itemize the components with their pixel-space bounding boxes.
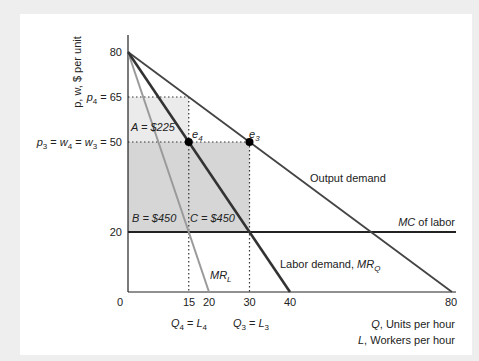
y-axis-title: p, w, $ per unit	[71, 36, 83, 108]
chart-svg: p, w, $ per unit 80 p4 = 65 p3 = w4 = w3…	[0, 0, 479, 361]
x-tick-15: 15	[183, 296, 195, 308]
mrl-label: MRL	[210, 269, 232, 284]
y-tick-80: 80	[110, 46, 122, 58]
region-b-label: B = $450	[132, 212, 177, 224]
x-tick-80: 80	[445, 296, 457, 308]
y65-rest: = 65	[97, 91, 122, 103]
x-axis-title-q: Q, Units per hour	[371, 318, 455, 330]
label-q4-l4: Q4 = L4	[171, 317, 208, 332]
mc-of-labor-label: MC of labor	[398, 216, 455, 228]
y-tick-50: p3 = w4 = w3 = 50	[36, 136, 122, 151]
x-tick-40: 40	[284, 296, 296, 308]
label-q3-l3: Q3 = L3	[233, 317, 270, 332]
y-tick-20: 20	[110, 226, 122, 238]
labor-demand-label: Labor demand, MRQ	[280, 258, 380, 273]
region-a	[128, 97, 189, 142]
y65-var: p	[86, 91, 93, 103]
x-tick-30: 30	[243, 296, 255, 308]
output-demand-label: Output demand	[310, 172, 386, 184]
y-tick-65: p4 = 65	[86, 91, 122, 106]
region-a-label: A = $225	[130, 121, 176, 133]
e4-label: e4	[192, 128, 203, 143]
region-c-label: C = $450	[190, 212, 236, 224]
x-tick-0: 0	[117, 296, 123, 308]
x-tick-20: 20	[203, 296, 215, 308]
x-axis-title-l: L, Workers per hour	[358, 334, 455, 346]
